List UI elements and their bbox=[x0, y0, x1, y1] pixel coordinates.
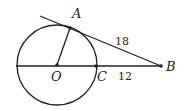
point-c bbox=[94, 64, 98, 68]
radius-oa bbox=[57, 28, 70, 65]
tangent-line-ab bbox=[40, 16, 161, 66]
point-b bbox=[159, 64, 163, 68]
label-a: A bbox=[71, 6, 81, 21]
label-o: O bbox=[51, 69, 62, 84]
length-cb: 12 bbox=[118, 70, 132, 83]
geometry-diagram: A O C B 18 12 bbox=[0, 0, 184, 111]
label-c: C bbox=[97, 69, 107, 84]
point-a bbox=[68, 26, 72, 30]
point-o bbox=[55, 63, 59, 67]
label-b: B bbox=[165, 59, 176, 74]
length-ab: 18 bbox=[115, 35, 129, 48]
